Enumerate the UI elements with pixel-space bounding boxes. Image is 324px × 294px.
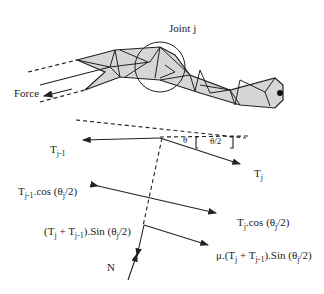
t-j-cos-label: Tj.cos (θj/2) <box>237 217 290 231</box>
theta-half-label: θ/2 <box>210 137 221 146</box>
joint-label: Joint j <box>169 23 196 34</box>
t-prev-cos-label: Tj-1.cos (θj/2) <box>18 186 77 200</box>
force-label: Force <box>14 88 39 99</box>
normal-label: N <box>107 262 115 273</box>
t-prev-label: Tj-1 <box>50 144 66 158</box>
t-j-label: Tj <box>254 168 263 182</box>
tip-dot <box>277 90 283 96</box>
sum-sin-label: (Tj + Tj-1).Sin (θj/2) <box>44 226 131 240</box>
diagram: Joint j Force θ θ/2 Tj-1 Tj Tj-1.cos (θj… <box>0 0 324 294</box>
finger-body <box>77 47 283 108</box>
theta-label: θ <box>183 136 187 145</box>
friction-label: μ.(Tj + Tj-1).Sin (θj/2) <box>216 250 312 264</box>
